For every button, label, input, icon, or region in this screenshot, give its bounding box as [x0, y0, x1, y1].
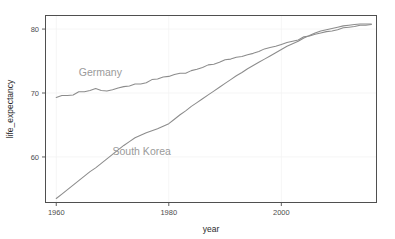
y-axis-tick-labels: 607080 [31, 25, 39, 162]
y-tick-label-80: 80 [31, 25, 39, 34]
x-axis-tick-labels: 196019802000 [48, 208, 290, 217]
plot-panel-background [45, 15, 377, 203]
y-tick-label-60: 60 [31, 153, 39, 162]
line-chart-svg: 196019802000 607080 GermanySouth Korea y… [0, 0, 395, 239]
germany-label: Germany [79, 66, 123, 78]
chart-figure: · · 196019802000 607080 GermanySouth Kor… [0, 0, 395, 239]
south-korea-label: South Korea [113, 145, 172, 157]
x-axis-title: year [203, 224, 220, 234]
x-tick-label-2000: 2000 [273, 208, 290, 217]
x-tick-label-1960: 1960 [48, 208, 65, 217]
y-axis-title: life_expectancy [5, 79, 15, 138]
x-tick-label-1980: 1980 [160, 208, 177, 217]
y-tick-label-70: 70 [31, 89, 39, 98]
